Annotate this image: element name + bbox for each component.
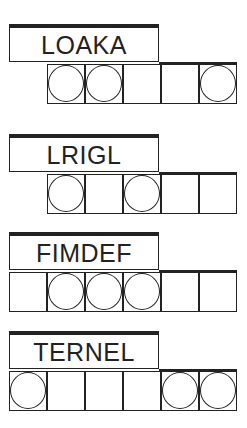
circle-icon [48, 175, 84, 212]
scrambled-word-text: LRIGL [47, 139, 122, 170]
circle-icon [200, 65, 236, 102]
circle-icon [48, 65, 84, 102]
answer-cell[interactable] [47, 371, 85, 411]
answer-cell-circled[interactable] [199, 64, 237, 104]
scrambled-word-text: LOAKA [41, 29, 127, 60]
scrambled-word-puzzle: LOAKA [0, 24, 247, 114]
answer-cell-circled[interactable] [9, 371, 47, 411]
circle-icon [10, 372, 46, 409]
answer-cell[interactable] [9, 272, 47, 312]
answer-cell-circled[interactable] [199, 371, 237, 411]
scrambled-word-puzzle: TERNEL [0, 331, 247, 421]
answer-cell[interactable] [85, 371, 123, 411]
circle-icon [162, 372, 198, 409]
circle-icon [124, 273, 160, 310]
scrambled-word-puzzle: FIMDEF [0, 232, 247, 322]
answer-cell[interactable] [161, 272, 199, 312]
answer-cell-circled[interactable] [47, 174, 85, 214]
answer-cell[interactable] [199, 272, 237, 312]
circle-icon [200, 372, 236, 409]
answer-cell-circled[interactable] [161, 371, 199, 411]
scrambled-word-label: LOAKA [9, 24, 159, 62]
answer-cell[interactable] [85, 174, 123, 214]
answer-cell[interactable] [161, 64, 199, 104]
answer-cell-circled[interactable] [47, 272, 85, 312]
scrambled-word-label: FIMDEF [9, 232, 159, 270]
answer-cell[interactable] [161, 174, 199, 214]
answer-cell-circled[interactable] [123, 272, 161, 312]
circle-icon [86, 65, 122, 102]
scrambled-word-text: TERNEL [33, 336, 135, 367]
answer-cell[interactable] [123, 371, 161, 411]
answer-cell-circled[interactable] [123, 174, 161, 214]
answer-cell[interactable] [199, 174, 237, 214]
answer-cell-circled[interactable] [85, 272, 123, 312]
scrambled-word-label: TERNEL [9, 331, 159, 369]
circle-icon [48, 273, 84, 310]
circle-icon [124, 175, 160, 212]
scrambled-word-text: FIMDEF [36, 237, 132, 268]
answer-cell-circled[interactable] [85, 64, 123, 104]
answer-cell[interactable] [123, 64, 161, 104]
circle-icon [86, 273, 122, 310]
answer-cell-circled[interactable] [47, 64, 85, 104]
scrambled-word-label: LRIGL [9, 134, 159, 172]
scrambled-word-puzzle: LRIGL [0, 134, 247, 224]
